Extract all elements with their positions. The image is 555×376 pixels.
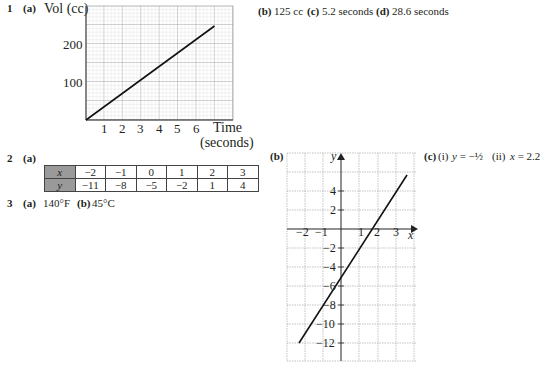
variable-x: x	[510, 150, 515, 162]
table-cell: −8	[106, 179, 137, 192]
table-cell: 1	[197, 179, 228, 192]
x-tick-3: 3	[393, 225, 399, 240]
y-tick-neg8: −8	[323, 298, 336, 313]
question-3b-answer: 45°C	[92, 197, 115, 209]
table-cell: 0	[136, 166, 167, 179]
y-tick-100: 100	[63, 75, 83, 91]
y-tick-neg12: −12	[316, 336, 335, 351]
question-2c-i-answer: y = −½	[452, 150, 483, 162]
values-table: x −2 −1 0 1 2 3 y −11 −8 −5 −2 1 4	[44, 165, 259, 192]
table-header-x: x	[45, 166, 76, 179]
y-axis-label-vol: Vol (cc)	[44, 1, 88, 17]
table-row-x: x −2 −1 0 1 2 3	[45, 166, 259, 179]
question-1a-label: (a)	[23, 2, 36, 14]
question-3-number: 3	[7, 197, 13, 209]
volume-time-graph	[86, 6, 233, 120]
question-2c-ii-label: (ii)	[492, 150, 505, 162]
answer-value: = −½	[460, 150, 483, 162]
y-tick-2: 2	[330, 203, 336, 218]
y-tick-200: 200	[63, 37, 83, 53]
x-tick-2: 2	[374, 225, 380, 240]
x-tick-3: 3	[137, 121, 144, 137]
table-cell: −1	[106, 166, 137, 179]
question-1d-label: (d)	[376, 5, 389, 17]
question-3b-label: (b)	[77, 197, 90, 209]
y-axis-label: y	[331, 149, 336, 164]
question-2c-ii-answer: x = 2.2	[510, 150, 540, 162]
x-axis-label: x	[408, 228, 413, 243]
question-2b-label: (b)	[270, 150, 283, 162]
question-1-number: 1	[7, 2, 13, 14]
table-row-y: y −11 −8 −5 −2 1 4	[45, 179, 259, 192]
x-tick-1: 1	[101, 121, 108, 137]
x-tick-2: 2	[119, 121, 126, 137]
variable-y: y	[452, 150, 457, 162]
x-tick-neg2: −2	[296, 225, 309, 240]
question-3a-answer: 140°F	[43, 197, 70, 209]
x-tick-4: 4	[156, 121, 163, 137]
x-tick-6: 6	[193, 121, 200, 137]
question-2c-label: (c)	[424, 150, 436, 162]
y-tick-neg10: −10	[316, 317, 335, 332]
question-2a-label: (a)	[23, 152, 36, 164]
question-1d-answer: 28.6 seconds	[392, 5, 449, 17]
y-tick-neg2: −2	[323, 241, 336, 256]
question-2c-i-label: (i)	[438, 150, 448, 162]
question-3a-label: (a)	[23, 197, 36, 209]
table-cell: −5	[136, 179, 167, 192]
table-cell: −2	[75, 166, 106, 179]
table-header-y: y	[45, 179, 76, 192]
table-cell: 2	[197, 166, 228, 179]
x-tick-neg1: −1	[315, 225, 328, 240]
question-1b-label: (b)	[258, 5, 271, 17]
table-cell: −11	[75, 179, 106, 192]
question-1c-answer: 5.2 seconds	[322, 5, 373, 17]
y-tick-4: 4	[330, 184, 336, 199]
y-tick-neg4: −4	[323, 260, 336, 275]
linear-function-graph	[287, 153, 417, 363]
y-axis-arrow-icon	[337, 153, 345, 160]
table-cell: 4	[228, 179, 259, 192]
table-cell: −2	[167, 179, 198, 192]
y-tick-neg6: −6	[323, 279, 336, 294]
x-tick-5: 5	[174, 121, 181, 137]
table-cell: 1	[167, 166, 198, 179]
x-axis-label-seconds: (seconds)	[200, 135, 254, 151]
question-2-number: 2	[7, 152, 13, 164]
question-1c-label: (c)	[307, 5, 319, 17]
x-axis-label-time: Time	[213, 120, 242, 136]
x-tick-1: 1	[358, 225, 364, 240]
question-1b-answer: 125 cc	[274, 5, 303, 17]
answer-value: = 2.2	[518, 150, 541, 162]
table-cell: 3	[228, 166, 259, 179]
